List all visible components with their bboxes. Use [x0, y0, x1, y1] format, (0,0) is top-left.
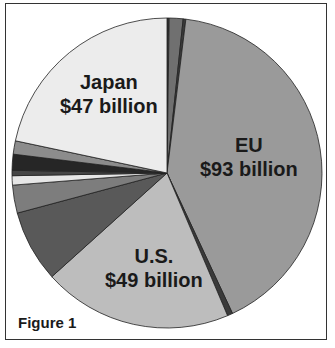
slice-label-japan: Japan $47 billion: [60, 70, 158, 118]
us-name: U.S.: [105, 244, 203, 268]
japan-name: Japan: [60, 70, 158, 94]
us-value: $49 billion: [105, 268, 203, 292]
eu-name: EU: [200, 133, 298, 157]
slice-label-us: U.S. $49 billion: [105, 244, 203, 292]
eu-value: $93 billion: [200, 157, 298, 181]
figure-caption: Figure 1: [18, 314, 76, 331]
slice-label-eu: EU $93 billion: [200, 133, 298, 181]
japan-value: $47 billion: [60, 94, 158, 118]
